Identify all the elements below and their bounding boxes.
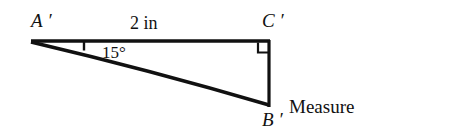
measure-annotation-line1: Measure [289,94,412,119]
right-angle-marker [258,43,269,53]
segment-ab [31,42,269,105]
side-length-label-ac: 2 in [130,14,158,32]
vertex-label-b: B ′ [262,110,283,129]
measure-annotation: Measure (approx 0.55 in) [289,44,412,139]
geometry-figure: A ′ C ′ B ′ 2 in 15° Measure (approx 0.5… [0,0,459,139]
vertex-label-a: A ′ [31,11,52,30]
angle-measure-label: 15° [102,44,126,61]
vertex-label-c: C ′ [262,11,284,30]
